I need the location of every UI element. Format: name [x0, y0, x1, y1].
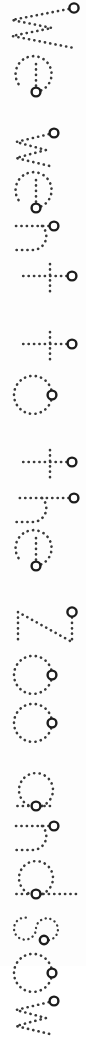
word-space-4	[0, 574, 86, 604]
trace-letter-a[interactable]	[0, 774, 86, 818]
trace-letter-t-3[interactable]	[0, 446, 86, 486]
trace-letter-e-3[interactable]	[0, 532, 86, 574]
trace-letter-d[interactable]	[0, 860, 86, 906]
word-space-1	[0, 100, 86, 128]
trace-letter-W[interactable]	[0, 2, 86, 54]
trace-letter-Z[interactable]	[0, 604, 86, 650]
trace-letter-e-1[interactable]	[0, 58, 86, 100]
trace-letter-n-1[interactable]	[0, 218, 86, 258]
trace-letter-n-2[interactable]	[0, 818, 86, 858]
word-space-3	[0, 418, 86, 446]
trace-letter-h[interactable]	[0, 488, 86, 530]
trace-letter-w-2[interactable]	[0, 996, 86, 1040]
word-space-2	[0, 300, 86, 328]
trace-letter-o-1[interactable]	[0, 372, 86, 418]
trace-letter-o-2[interactable]	[0, 652, 86, 698]
trace-letter-t-2[interactable]	[0, 328, 86, 368]
trace-letter-o-4[interactable]	[0, 950, 86, 996]
trace-letter-s[interactable]	[0, 912, 86, 952]
trace-letter-e-2[interactable]	[0, 174, 86, 216]
trace-letter-w[interactable]	[0, 128, 86, 172]
trace-letter-o-3[interactable]	[0, 700, 86, 746]
word-space-5	[0, 746, 86, 774]
trace-letter-t-1[interactable]	[0, 260, 86, 300]
